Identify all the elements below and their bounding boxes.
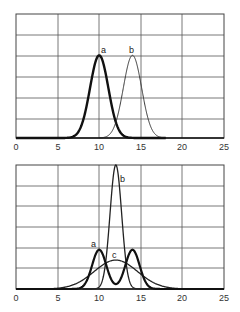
- svg-text:10: 10: [94, 142, 104, 152]
- svg-text:15: 15: [136, 293, 146, 303]
- bottom-x-ticks: 0 5 10 15 20 25: [13, 293, 229, 303]
- bottom-label-c: c: [112, 250, 117, 260]
- svg-text:5: 5: [55, 293, 60, 303]
- bottom-chart: a b c 0 5 10 15 20 25: [13, 165, 229, 303]
- bottom-label-b: b: [120, 174, 125, 184]
- bottom-curve-a: [16, 250, 224, 289]
- svg-text:0: 0: [13, 293, 18, 303]
- top-label-b: b: [129, 45, 134, 55]
- bottom-label-a: a: [91, 239, 96, 249]
- svg-text:25: 25: [219, 142, 229, 152]
- svg-text:5: 5: [55, 142, 60, 152]
- figure: a b 0 5 10 15 20 25 a b c: [0, 0, 240, 312]
- svg-text:20: 20: [177, 142, 187, 152]
- svg-text:25: 25: [219, 293, 229, 303]
- svg-text:10: 10: [94, 293, 104, 303]
- svg-text:15: 15: [136, 142, 146, 152]
- svg-text:0: 0: [13, 142, 18, 152]
- top-grid: [16, 14, 224, 138]
- top-x-ticks: 0 5 10 15 20 25: [13, 142, 229, 152]
- top-chart: a b 0 5 10 15 20 25: [13, 14, 229, 152]
- top-label-a: a: [101, 45, 106, 55]
- svg-text:20: 20: [177, 293, 187, 303]
- bottom-curve-c: [16, 260, 224, 289]
